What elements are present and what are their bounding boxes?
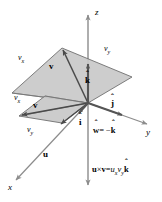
j-hat-label: j [111, 99, 114, 108]
w-eq-equals: = − [99, 125, 111, 135]
i-hat-label: i [79, 118, 82, 127]
upper-plane-vy-label: vy [104, 45, 110, 55]
figure-canvas [0, 0, 162, 202]
upper-vx-sub: x [22, 58, 25, 64]
lower-vx-sub: x [18, 98, 21, 104]
upper-plane-vx-label: vx [18, 54, 24, 64]
lower-plane-vx-label: vx [14, 94, 20, 104]
upper-plane-v-label: v [49, 62, 54, 71]
lower-plane-vy-label: vy [27, 126, 33, 136]
w-hat-equation: w= −k [93, 126, 116, 135]
x-axis-label: x [8, 183, 12, 192]
i-hat-glyph: i [79, 118, 82, 127]
j-hat-glyph: j [111, 99, 114, 108]
z-axis-label: z [95, 8, 99, 17]
vector-cross-product-figure: z y x vx vy v k vx v vy i j u w= −k u×v=… [0, 0, 162, 202]
cp-k-glyph: k [124, 165, 129, 174]
y-axis-label: y [146, 128, 150, 137]
k-hat-label: k [85, 76, 90, 85]
lower-vy-sub: y [31, 130, 34, 136]
w-eq-k-glyph: k [111, 126, 116, 135]
k-hat-glyph: k [85, 76, 90, 85]
j-hat-vector [88, 103, 122, 115]
lower-plane-v-label: v [33, 101, 38, 110]
upper-vy-sub: y [108, 49, 111, 55]
u-vector-label: u [43, 150, 48, 159]
cross-product-equation: u×v=uxvyk [92, 165, 129, 176]
w-hat-glyph: w [93, 126, 99, 135]
